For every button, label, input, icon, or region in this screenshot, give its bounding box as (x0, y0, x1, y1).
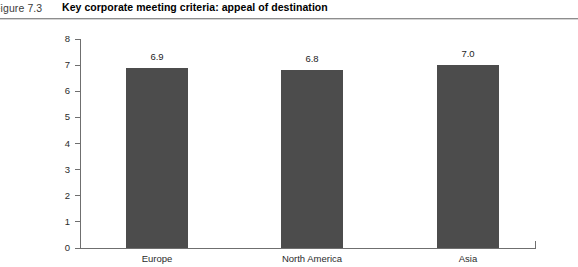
x-axis-category-label: Asia (408, 254, 528, 264)
y-axis-tick (75, 195, 80, 196)
x-axis-end-cap (535, 241, 536, 249)
bar-value-label: 6.8 (282, 54, 342, 64)
bar-chart: 876543210 6.96.87.0 EuropeNorth AmericaA… (0, 20, 578, 267)
y-axis-line (80, 39, 81, 249)
y-axis-tick-label: 7 (48, 60, 70, 70)
y-axis-tick (75, 169, 80, 170)
bar-value-label: 6.9 (127, 52, 187, 62)
y-axis-tick-label: 6 (48, 86, 70, 96)
y-axis-tick (75, 39, 80, 40)
y-axis-tick (75, 65, 80, 66)
y-axis-tick (75, 143, 80, 144)
y-axis-tick-label: 3 (48, 165, 70, 175)
y-axis-tick-label: 4 (48, 139, 70, 149)
x-axis-category-label: Europe (97, 254, 217, 264)
y-axis-tick (75, 91, 80, 92)
y-axis-tick (75, 117, 80, 118)
bar (437, 65, 499, 248)
x-axis-line (80, 248, 536, 249)
figure-title: Key corporate meeting criteria: appeal o… (62, 1, 328, 13)
y-axis-tick-label: 1 (48, 217, 70, 227)
bar (281, 70, 343, 248)
bar (126, 68, 188, 248)
y-axis-tick-label: 2 (48, 191, 70, 201)
y-axis-tick-label: 0 (48, 243, 70, 253)
x-axis-category-label: North America (252, 254, 372, 264)
bar-value-label: 7.0 (438, 49, 498, 59)
figure-header: Figure 7.3 Key corporate meeting criteri… (0, 0, 578, 20)
y-axis-tick (75, 221, 80, 222)
figure-number-label: Figure 7.3 (0, 2, 42, 14)
y-axis-tick (75, 248, 80, 249)
y-axis-tick-label: 5 (48, 112, 70, 122)
y-axis-tick-label: 8 (48, 34, 70, 44)
